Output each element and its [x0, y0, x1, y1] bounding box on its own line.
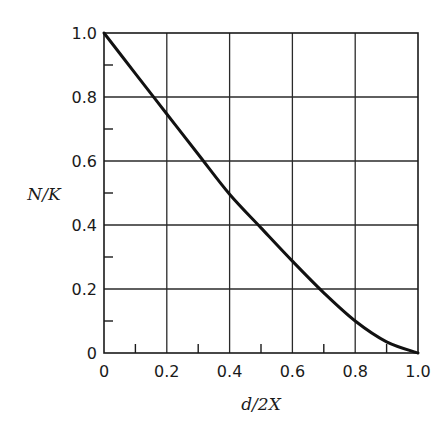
y-tick-label: 1.0 [72, 24, 97, 43]
chart: 00.20.40.60.81.0 00.20.40.60.81.0 d/2X N… [0, 0, 444, 428]
x-tick-label: 0 [99, 362, 109, 381]
y-tick-label: 0.6 [72, 152, 97, 171]
grid-lines [104, 33, 418, 353]
y-tick-label: 0.8 [72, 88, 97, 107]
x-tick-label: 0.4 [217, 362, 242, 381]
plot-frame [104, 33, 418, 353]
y-tick-labels: 00.20.40.60.81.0 [72, 24, 97, 363]
x-tick-label: 0.2 [154, 362, 179, 381]
y-tick-label: 0.2 [72, 280, 97, 299]
y-tick-label: 0 [87, 344, 97, 363]
data-curve [104, 33, 418, 353]
x-tick-labels: 00.20.40.60.81.0 [99, 362, 431, 381]
x-tick-label: 1.0 [405, 362, 430, 381]
y-tick-label: 0.4 [72, 216, 97, 235]
x-tick-label: 0.8 [342, 362, 367, 381]
x-axis-label: d/2X [241, 394, 281, 414]
x-tick-label: 0.6 [280, 362, 305, 381]
y-axis-label: N/K [26, 184, 62, 204]
